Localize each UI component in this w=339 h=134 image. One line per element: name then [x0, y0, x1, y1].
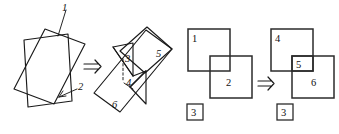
label-region-5: 5 — [156, 48, 161, 59]
panel-left-intersecting-planes: 1 2 — [14, 2, 85, 107]
label-plane-2: 2 — [78, 81, 84, 92]
label-plane-1: 1 — [62, 2, 67, 13]
double-right-arrow-icon-2 — [258, 77, 274, 90]
transform-arrow-1 — [84, 60, 101, 73]
label-square-2: 2 — [226, 77, 231, 88]
label-boxed-3-before: 3 — [191, 107, 196, 118]
leader-line-1 — [58, 10, 66, 36]
label-region-4: 4 — [126, 77, 132, 88]
panel-schematic-after: 4 5 6 3 — [271, 29, 334, 120]
label-square-6: 6 — [311, 77, 316, 88]
panel-middle-exploded-planes: 3 4 5 6 — [94, 27, 172, 112]
label-square-4: 4 — [275, 33, 281, 44]
double-right-arrow-icon — [84, 60, 101, 73]
transform-arrow-2 — [258, 77, 274, 90]
panel-schematic-before: 1 2 3 — [187, 29, 252, 120]
figure-root: 1 2 3 4 — [0, 0, 339, 134]
panel-5-parallelogram — [120, 27, 172, 73]
diagram-canvas: 1 2 3 4 — [0, 0, 339, 134]
label-boxed-3-after: 3 — [281, 107, 286, 118]
label-region-3: 3 — [124, 53, 130, 64]
fin-lower-edge — [130, 71, 146, 87]
label-region-6: 6 — [112, 99, 118, 110]
label-square-5: 5 — [296, 59, 301, 70]
label-square-1: 1 — [192, 33, 197, 44]
